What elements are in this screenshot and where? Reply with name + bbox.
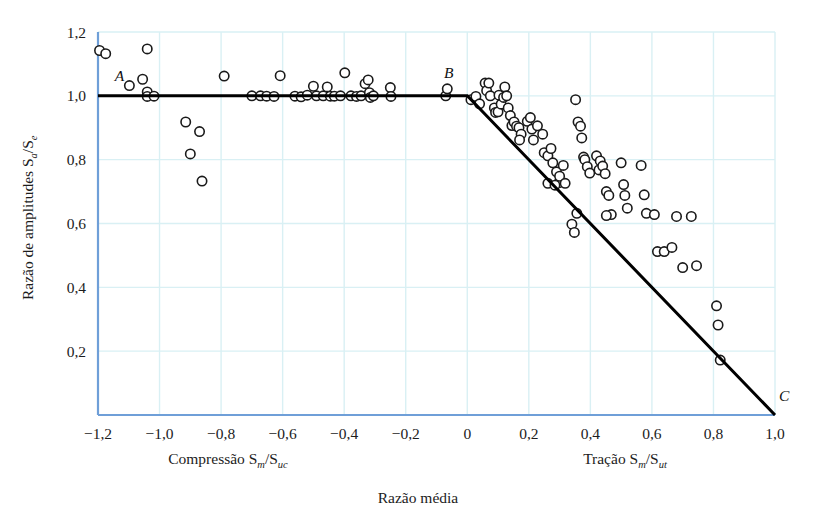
data-point-marker <box>500 82 509 91</box>
data-point-marker <box>604 191 613 200</box>
x-tick-label: 0,8 <box>704 425 724 442</box>
data-point-marker <box>687 212 696 221</box>
data-point-marker <box>323 82 332 91</box>
x-tick-label: −0,4 <box>330 425 358 442</box>
data-point-marker <box>197 176 206 185</box>
data-point-marker <box>526 113 535 122</box>
y-tick-label: 0,4 <box>67 279 87 296</box>
data-point-marker <box>650 210 659 219</box>
data-point-marker <box>620 191 629 200</box>
data-point-marker <box>546 144 555 153</box>
data-point-marker <box>219 71 228 80</box>
data-point-marker <box>386 83 395 92</box>
y-tick-label: 1,2 <box>67 24 86 41</box>
data-point-marker <box>571 95 580 104</box>
x-tick-label: −0,6 <box>269 425 297 442</box>
data-point-marker <box>712 301 721 310</box>
data-point-marker <box>515 135 524 144</box>
x-tick-label: −0,2 <box>392 425 420 442</box>
data-point-marker <box>560 179 569 188</box>
data-point-marker <box>667 243 676 252</box>
data-point-marker <box>585 168 594 177</box>
y-tick-label: 1,0 <box>67 87 87 104</box>
data-point-marker <box>195 127 204 136</box>
x-axis-label-main: Razão média <box>378 489 459 506</box>
data-point-marker <box>692 261 701 270</box>
y-tick-label: 0,8 <box>67 151 87 168</box>
data-point-marker <box>616 158 625 167</box>
data-point-marker <box>125 81 134 90</box>
data-point-marker <box>619 180 628 189</box>
data-point-marker <box>275 71 284 80</box>
data-point-marker <box>363 75 372 84</box>
goodman-diagram-chart: −1,2−1,0−0,8−0,6−0,4−0,200,20,40,60,81,0… <box>0 0 825 521</box>
y-tick-label: 0,6 <box>67 215 87 232</box>
x-tick-label: −0,8 <box>207 425 235 442</box>
data-point-marker <box>640 190 649 199</box>
data-point-marker <box>548 158 557 167</box>
annotation-c: C <box>779 387 790 404</box>
data-point-marker <box>577 133 586 142</box>
data-point-marker <box>181 117 190 126</box>
data-point-marker <box>138 75 147 84</box>
data-point-marker <box>636 161 645 170</box>
annotation-a: A <box>114 67 125 84</box>
data-point-marker <box>672 212 681 221</box>
data-point-marker <box>600 169 609 178</box>
data-point-marker <box>602 211 611 220</box>
x-tick-label: −1,2 <box>84 425 112 442</box>
data-point-marker <box>101 49 110 58</box>
data-point-marker <box>443 84 452 93</box>
data-point-marker <box>559 161 568 170</box>
data-point-marker <box>570 228 579 237</box>
data-point-marker <box>529 135 538 144</box>
x-tick-label: 0 <box>463 425 471 442</box>
data-point-marker <box>678 263 687 272</box>
annotation-b: B <box>444 64 454 81</box>
data-point-marker <box>309 82 318 91</box>
data-point-marker <box>502 91 511 100</box>
data-point-marker <box>340 68 349 77</box>
data-point-marker <box>623 203 632 212</box>
figure-container: −1,2−1,0−0,8−0,6−0,4−0,200,20,40,60,81,0… <box>0 0 825 521</box>
x-tick-label: 0,4 <box>581 425 601 442</box>
x-tick-label: 0,2 <box>519 425 538 442</box>
data-point-marker <box>186 149 195 158</box>
data-point-marker <box>538 129 547 138</box>
data-point-marker <box>143 44 152 53</box>
x-tick-label: 1,0 <box>765 425 785 442</box>
data-point-marker <box>484 78 493 87</box>
data-point-marker <box>713 320 722 329</box>
data-point-marker <box>576 121 585 130</box>
x-tick-label: 0,6 <box>642 425 662 442</box>
y-tick-label: 0,2 <box>67 343 86 360</box>
x-tick-label: −1,0 <box>145 425 173 442</box>
